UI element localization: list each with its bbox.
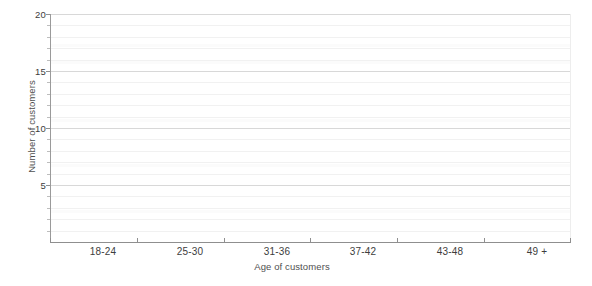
x-category-label-31-36: 31-36 xyxy=(264,246,291,257)
y-axis-tick-labels: 20 15 10 5 xyxy=(22,0,46,286)
gridline-major-20 xyxy=(50,14,570,15)
y-tick-label-10: 10 xyxy=(22,123,46,134)
y-tick-mark-5 xyxy=(46,185,50,186)
gridline-minor-19 xyxy=(50,25,570,26)
y-tick-mark-11 xyxy=(47,117,50,118)
x-axis-title: Age of customers xyxy=(254,261,330,272)
gridline-minor-11 xyxy=(50,117,570,118)
y-tick-mark-19 xyxy=(47,25,50,26)
y-tick-mark-16 xyxy=(47,60,50,61)
y-tick-mark-8 xyxy=(47,151,50,152)
y-tick-mark-3 xyxy=(47,208,50,209)
y-tick-mark-13 xyxy=(47,94,50,95)
scan-artifact-band xyxy=(50,210,570,213)
gridline-minor-17 xyxy=(50,48,570,49)
gridline-minor-9 xyxy=(50,139,570,140)
x-category-label-37-42: 37-42 xyxy=(350,246,377,257)
gridline-minor-1 xyxy=(50,231,570,232)
x-tick-mark-3 xyxy=(310,238,311,243)
gridline-minor-13 xyxy=(50,94,570,95)
y-tick-mark-2 xyxy=(47,219,50,220)
gridline-major-5 xyxy=(50,185,570,186)
gridline-minor-6 xyxy=(50,174,570,175)
y-tick-mark-4 xyxy=(47,196,50,197)
gridline-major-15 xyxy=(50,71,570,72)
x-axis-title-container: Age of customers xyxy=(0,261,592,272)
gridline-minor-7 xyxy=(50,162,570,163)
x-tick-mark-2 xyxy=(224,238,225,243)
scan-artifact-band xyxy=(50,119,570,122)
x-category-label-25-30: 25-30 xyxy=(177,246,204,257)
scan-artifact-band xyxy=(50,61,570,64)
x-category-label-43-48: 43-48 xyxy=(437,246,464,257)
chart-figure: Number of customers 20 15 10 5 xyxy=(0,0,592,286)
y-tick-mark-10 xyxy=(46,128,50,129)
y-tick-mark-7 xyxy=(47,162,50,163)
x-category-label-18-24: 18-24 xyxy=(90,246,117,257)
x-tick-mark-5 xyxy=(484,238,485,243)
y-tick-label-15: 15 xyxy=(22,66,46,77)
x-tick-mark-1 xyxy=(137,238,138,243)
x-tick-mark-4 xyxy=(397,238,398,243)
y-tick-mark-17 xyxy=(47,48,50,49)
y-tick-mark-1 xyxy=(47,231,50,232)
plot-right-edge xyxy=(570,14,571,243)
gridline-minor-18 xyxy=(50,37,570,38)
y-tick-mark-6 xyxy=(47,174,50,175)
gridline-minor-2 xyxy=(50,219,570,220)
gridline-minor-14 xyxy=(50,82,570,83)
y-axis-line xyxy=(50,14,51,243)
gridline-minor-4 xyxy=(50,196,570,197)
y-tick-mark-15 xyxy=(46,71,50,72)
gridline-minor-8 xyxy=(50,151,570,152)
y-tick-mark-12 xyxy=(47,105,50,106)
y-tick-label-20: 20 xyxy=(22,9,46,20)
x-category-label-49-plus: 49 + xyxy=(527,246,548,257)
gridline-minor-3 xyxy=(50,208,570,209)
x-tick-mark-6 xyxy=(570,238,571,243)
scan-artifact-band xyxy=(50,44,570,47)
y-tick-mark-9 xyxy=(47,139,50,140)
y-tick-mark-14 xyxy=(47,82,50,83)
plot-area xyxy=(50,14,570,242)
y-tick-mark-18 xyxy=(47,37,50,38)
y-tick-label-5: 5 xyxy=(22,180,46,191)
gridline-minor-16 xyxy=(50,60,570,61)
y-tick-mark-20 xyxy=(46,14,50,15)
gridline-minor-12 xyxy=(50,105,570,106)
scan-artifact-band xyxy=(50,164,570,167)
x-tick-mark-0 xyxy=(50,238,51,243)
gridline-major-10 xyxy=(50,128,570,129)
